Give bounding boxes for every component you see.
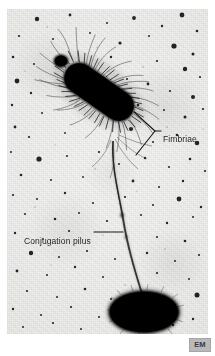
annotation-pointers xyxy=(7,9,208,334)
em-badge: EM xyxy=(189,338,211,352)
fimbriae-label: Fimbriae xyxy=(163,135,197,144)
conjugation-pilus-label: Conjugation pilus xyxy=(24,237,91,246)
em-badge-label: EM xyxy=(194,341,206,349)
fimbriae-bracket-pointer xyxy=(134,112,161,155)
electron-micrograph-figure: Fimbriae Conjugation pilus EM xyxy=(0,0,215,356)
micrograph-plate: Fimbriae Conjugation pilus xyxy=(7,9,208,334)
